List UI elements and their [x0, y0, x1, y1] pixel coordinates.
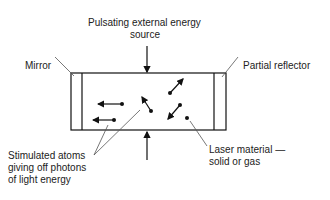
photon-arrow	[170, 79, 183, 93]
laser-chamber	[71, 73, 226, 130]
laser-material-label-1: Laser material —	[209, 144, 285, 156]
stimulated-leader	[94, 110, 140, 155]
atom	[112, 118, 116, 122]
atom	[185, 116, 189, 120]
source-label-2: source	[130, 29, 160, 41]
atom	[178, 103, 182, 107]
mirror-label: Mirror	[25, 60, 51, 72]
photon-arrow	[142, 97, 151, 111]
partial-reflector-label: Partial reflector	[243, 60, 310, 72]
atom	[149, 109, 153, 113]
mirror-leader	[55, 57, 74, 76]
atom	[168, 91, 172, 95]
photon-arrow	[168, 105, 180, 119]
stimulated-label-1: Stimulated atoms	[8, 150, 85, 162]
atom	[120, 102, 124, 106]
stimulated-label-3: of light energy	[8, 174, 71, 186]
reflector-leader	[222, 57, 238, 77]
laser-material-label-2: solid or gas	[209, 156, 260, 168]
source-label-1: Pulsating external energy	[88, 17, 201, 29]
laser-leader	[190, 121, 207, 146]
stimulated-label-2: giving off photons	[8, 162, 86, 174]
